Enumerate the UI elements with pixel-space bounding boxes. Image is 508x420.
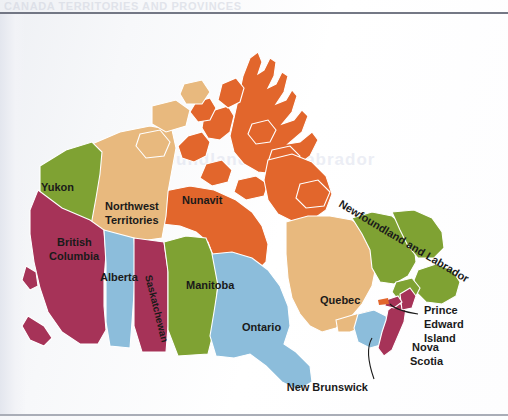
label-prince-edward-island: Prince Edward Island: [424, 304, 464, 344]
svg-text:Territories: Territories: [105, 214, 159, 226]
canada-map-svg: Yukon Northwest Territories Nunavit Brit…: [0, 14, 508, 414]
label-manitoba: Manitoba: [186, 279, 235, 291]
svg-text:Scotia: Scotia: [410, 355, 444, 367]
region-alberta[interactable]: [104, 230, 136, 348]
canada-map-figure: Yukon Northwest Territories Nunavit Brit…: [0, 14, 508, 414]
label-ontario: Ontario: [242, 321, 281, 333]
label-nunavut: Nunavit: [182, 194, 223, 206]
svg-text:Edward: Edward: [424, 318, 464, 330]
svg-text:Prince: Prince: [424, 304, 458, 316]
svg-text:British: British: [57, 236, 92, 248]
label-nova-scotia: Nova Scotia: [410, 341, 444, 367]
label-quebec: Quebec: [320, 294, 360, 306]
page-header-text: CANADA TERRITORIES AND PROVINCES: [0, 0, 508, 11]
label-yukon: Yukon: [41, 181, 74, 193]
label-new-brunswick: New Brunswick: [287, 381, 369, 393]
coastal-accent: [378, 298, 389, 305]
svg-text:Island: Island: [424, 332, 456, 344]
region-manitoba[interactable]: [164, 236, 218, 356]
label-alberta: Alberta: [100, 271, 139, 283]
svg-text:Northwest: Northwest: [105, 200, 159, 212]
svg-text:Columbia: Columbia: [49, 250, 100, 262]
footer-divider: [0, 414, 508, 416]
